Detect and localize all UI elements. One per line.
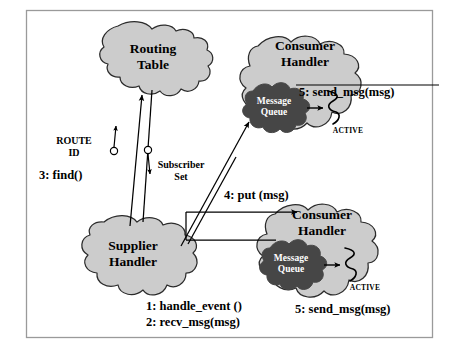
routing-table-label-line1: Routing	[130, 41, 177, 56]
route-id-label-line1: ROUTE	[56, 135, 92, 146]
diagram-canvas: Routing Table Supplier Handler Consumer …	[0, 0, 458, 348]
message-queue-top-label-line2: Queue	[261, 107, 287, 117]
routing-table-label-line2: Table	[137, 57, 169, 72]
message-label-step5-bottom: 5: send_msg(msg)	[295, 302, 390, 316]
consumer-handler-top-label-line1: Consumer	[275, 38, 335, 53]
route-id-ball	[110, 147, 117, 154]
subscriber-set-label-line2: Set	[174, 171, 188, 182]
message-queue-bottom-label-line2: Queue	[278, 264, 304, 274]
consumer-handler-bottom-label-line1: Consumer	[292, 207, 352, 222]
message-label-step3: 3: find()	[39, 168, 82, 182]
active-label-top: ACTIVE	[333, 126, 363, 135]
message-queue-bottom-label-line1: Message	[274, 253, 308, 263]
consumer-handler-top-label-line2: Handler	[281, 54, 329, 69]
message-label-step2: 2: recv_msg(msg)	[146, 315, 240, 329]
message-label-step5-top: 5: send_msg(msg)	[299, 85, 394, 99]
consumer-handler-bottom-label-line2: Handler	[298, 223, 346, 238]
subscriber-set-ball	[144, 146, 151, 153]
supplier-handler-label-line2: Handler	[109, 254, 157, 269]
route-id-label-line2: ID	[68, 147, 79, 158]
subscriber-set-label-line1: Subscriber	[158, 159, 205, 170]
message-label-step1: 1: handle_event ()	[146, 299, 242, 313]
message-label-step4: 4: put (msg)	[224, 188, 289, 202]
supplier-handler-label-line1: Supplier	[108, 238, 158, 253]
active-label-bottom: ACTIVE	[350, 283, 380, 292]
diagram-svg: Routing Table Supplier Handler Consumer …	[0, 0, 458, 348]
message-queue-top-label-line1: Message	[257, 96, 291, 106]
